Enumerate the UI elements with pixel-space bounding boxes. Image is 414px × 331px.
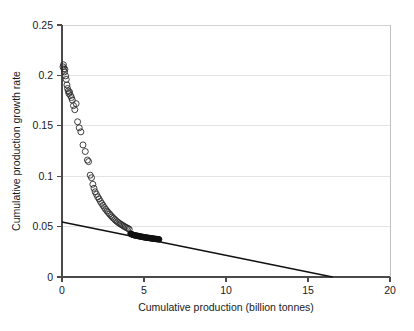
plot-frame xyxy=(62,25,390,277)
data-point-open xyxy=(86,159,92,165)
y-tick-label: 0.25 xyxy=(33,19,54,31)
data-point-open xyxy=(63,76,69,82)
data-point-open xyxy=(91,185,97,191)
data-point-open xyxy=(82,149,88,155)
x-tick-label: 15 xyxy=(302,284,314,296)
data-point-open xyxy=(78,129,84,135)
chart-figure: 00.050.10.150.20.25 05101520 Cumulative … xyxy=(0,0,414,331)
y-tick-label: 0.2 xyxy=(38,69,53,81)
series-filled-circles xyxy=(128,231,162,242)
y-tick-label: 0.15 xyxy=(33,119,54,131)
y-axis-title: Cumulative production growth rate xyxy=(10,71,22,231)
x-tick-label: 10 xyxy=(220,284,232,296)
data-point-open xyxy=(75,119,81,125)
y-tick-label: 0.05 xyxy=(33,220,54,232)
y-axis-ticks: 00.050.10.150.20.25 xyxy=(33,19,62,283)
x-tick-label: 20 xyxy=(384,284,396,296)
series-open-circles xyxy=(60,62,132,232)
y-tick-label: 0.1 xyxy=(38,170,53,182)
y-tick-label: 0 xyxy=(47,271,53,283)
data-point-open xyxy=(72,107,78,113)
axes xyxy=(62,25,390,277)
fit-line xyxy=(62,222,333,277)
x-tick-label: 5 xyxy=(141,284,147,296)
data-point-open xyxy=(80,142,86,148)
gridlines xyxy=(62,25,390,227)
scatter-plot-canvas: 00.050.10.150.20.25 05101520 Cumulative … xyxy=(0,0,414,331)
data-point-filled xyxy=(156,237,162,243)
data-point-open xyxy=(90,181,96,187)
x-axis-title: Cumulative production (billion tonnes) xyxy=(138,301,314,313)
x-tick-label: 0 xyxy=(59,284,65,296)
x-axis-ticks: 05101520 xyxy=(59,277,396,296)
